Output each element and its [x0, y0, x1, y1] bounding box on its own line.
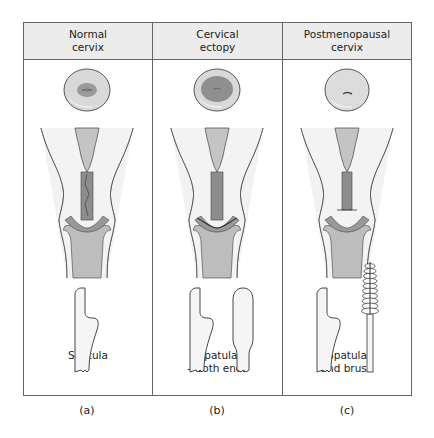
uterus-section-ectopy — [171, 128, 263, 278]
cytobrush-icon — [362, 262, 379, 372]
cervix-face-ectopy — [194, 69, 240, 111]
spatula-icon — [190, 288, 213, 372]
uterus-section-normal — [41, 128, 133, 278]
panel-label-c: (c) — [327, 404, 367, 417]
spatula-icon — [317, 288, 340, 372]
diagram-illustrations — [0, 0, 434, 438]
panel-label-a: (a) — [67, 404, 107, 417]
spatula-icon — [75, 288, 98, 372]
spatula-rounded-end-icon — [233, 288, 253, 372]
panel-label-b: (b) — [197, 404, 237, 417]
cervix-face-postmenopausal — [325, 69, 369, 111]
uterus-section-postmenopausal — [301, 128, 393, 278]
cervix-face-normal — [64, 69, 110, 111]
